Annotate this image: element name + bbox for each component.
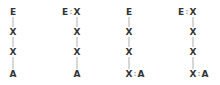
atom-x: X <box>190 69 197 79</box>
atom-e: E <box>62 7 68 17</box>
atom-x: X <box>126 69 133 79</box>
structure-1: EXXA <box>10 7 17 79</box>
atom-a: A <box>202 69 209 79</box>
atom-e: E <box>126 7 132 17</box>
atom-a: A <box>74 69 81 79</box>
atom-x: X <box>126 27 133 37</box>
atom-e: E <box>178 7 184 17</box>
atom-x: X <box>190 27 197 37</box>
atom-x: X <box>10 27 17 37</box>
atom-x: X <box>74 7 81 17</box>
structure-3: EXXXA <box>126 7 145 79</box>
atom-a: A <box>10 69 17 79</box>
structure-2: EXXXA <box>62 7 81 79</box>
atom-e: E <box>10 7 16 17</box>
atom-x: X <box>190 7 197 17</box>
atom-a: A <box>138 69 145 79</box>
atom-x: X <box>74 47 81 57</box>
atom-x: X <box>190 47 197 57</box>
structure-4: EXXXXA <box>178 7 209 79</box>
chain-diagram: EXXAEXXXAEXXXAEXXXXA <box>0 0 220 85</box>
atom-x: X <box>126 47 133 57</box>
atom-x: X <box>74 27 81 37</box>
atom-x: X <box>10 47 17 57</box>
